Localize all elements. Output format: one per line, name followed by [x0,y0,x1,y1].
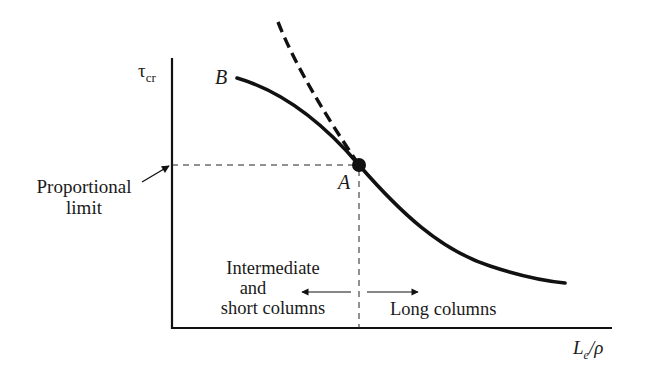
point-a-label: A [338,171,350,194]
intermediate-line1: Intermediate [200,258,346,278]
long-columns-label: Long columns [390,299,496,320]
y-axis-label: τcr [138,60,156,86]
y-axis-symbol: τ [138,60,146,81]
intermediate-line2: and [200,278,346,298]
x-axis-tail: /ρ [589,337,603,358]
point-a-marker [352,158,366,172]
euler-curve-dashed [278,22,359,165]
point-b-label: B [215,66,227,89]
proportional-limit-label: Proportional limit [20,176,148,218]
intermediate-line3: short columns [200,298,346,318]
y-axis-subscript: cr [146,70,156,85]
x-axis-label: Le/ρ [573,337,603,363]
column-curve [237,78,565,283]
x-axis-main: L [573,337,584,358]
intermediate-short-columns-label: Intermediate and short columns [200,258,346,318]
proportional-limit-line2: limit [20,197,148,218]
proportional-limit-line1: Proportional [20,176,148,197]
